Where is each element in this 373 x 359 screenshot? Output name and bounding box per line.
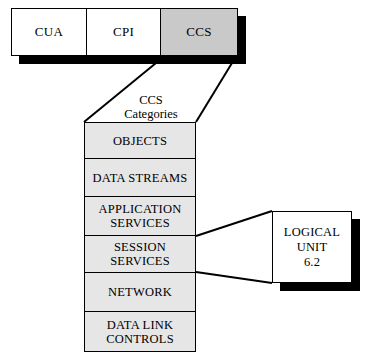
stack-row-line-1: DATA LINK (106, 318, 174, 332)
stack-caption-line-2: Categories (106, 107, 196, 121)
stack-row-line-2: SERVICES (99, 216, 182, 230)
stack-row-line-2: CONTROLS (106, 332, 174, 346)
stack-row-line-1: OBJECTS (113, 134, 167, 148)
stack-row-line-2: SERVICES (110, 254, 170, 268)
stack-caption-line-1: CCS (106, 93, 196, 107)
logical-unit-line-1: LOGICAL (284, 225, 340, 240)
logical-unit-label: LOGICAL UNIT 6.2 (284, 225, 340, 270)
connector-ccs-right (196, 63, 232, 122)
logical-unit-box[interactable]: LOGICAL UNIT 6.2 (272, 211, 352, 283)
stack-row-label: SESSION SERVICES (110, 240, 170, 268)
stack-row-session-services[interactable]: SESSION SERVICES (84, 235, 196, 273)
top-bar-label-ccs: CCS (186, 24, 211, 40)
connector-lu-bottom (196, 272, 272, 283)
logical-unit-line-2: UNIT (284, 240, 340, 255)
stack-row-line-1: APPLICATION (99, 202, 182, 216)
stack-row-label: DATA LINK CONTROLS (106, 318, 174, 346)
stack-row-label: OBJECTS (113, 134, 167, 148)
stack-row-application-services[interactable]: APPLICATION SERVICES (84, 196, 196, 236)
top-bar-box-cua[interactable]: CUA (11, 8, 87, 56)
connector-lu-top (196, 211, 272, 236)
stack-row-objects[interactable]: OBJECTS (84, 122, 196, 159)
diagram-canvas: CUA CPI CCS LOGICAL UNIT 6.2 CCS Categor… (0, 0, 373, 359)
top-bar-label-cpi: CPI (113, 24, 134, 40)
stack-row-label: DATA STREAMS (93, 171, 188, 185)
stack-row-data-link-controls[interactable]: DATA LINK CONTROLS (84, 311, 196, 352)
logical-unit-line-3: 6.2 (284, 255, 340, 270)
top-bar-box-ccs[interactable]: CCS (160, 8, 238, 56)
stack-caption: CCS Categories (106, 93, 196, 121)
stack-row-line-1: NETWORK (108, 285, 172, 299)
stack-row-network[interactable]: NETWORK (84, 272, 196, 312)
stack-row-line-1: DATA STREAMS (93, 171, 188, 185)
stack-row-line-1: SESSION (110, 240, 170, 254)
stack-row-data-streams[interactable]: DATA STREAMS (84, 158, 196, 197)
stack-row-label: NETWORK (108, 285, 172, 299)
top-bar-box-cpi[interactable]: CPI (86, 8, 161, 56)
stack-row-label: APPLICATION SERVICES (99, 202, 182, 230)
top-bar-label-cua: CUA (35, 24, 63, 40)
